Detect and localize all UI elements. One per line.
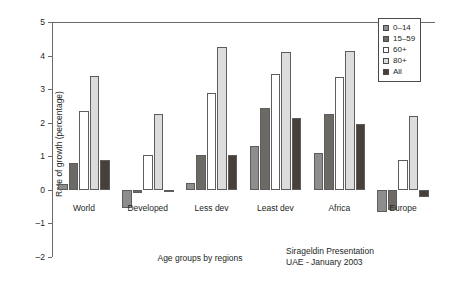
bar xyxy=(419,190,429,197)
bar xyxy=(154,114,164,190)
legend-item-3: 80+ xyxy=(383,56,415,66)
legend-swatch-icon xyxy=(383,36,389,42)
group-label-world: World xyxy=(73,203,95,213)
bar xyxy=(409,116,419,190)
bar xyxy=(356,124,366,189)
bar xyxy=(133,190,143,193)
bar xyxy=(398,160,408,190)
tick-label: 0 xyxy=(40,185,45,195)
tick-mark xyxy=(48,223,52,224)
legend-swatch-icon xyxy=(383,25,389,31)
legend-label: All xyxy=(393,68,402,76)
bar xyxy=(143,155,153,190)
growth-rate-bar-chart: Rate of growth (percentage) 543210–1–2 W… xyxy=(0,0,450,288)
tick-label: 2 xyxy=(40,118,45,128)
group-label-developed: Developed xyxy=(127,203,168,213)
bar xyxy=(292,118,302,190)
legend-swatch-icon xyxy=(383,58,389,64)
legend-item-4: All xyxy=(383,67,415,77)
tick-mark xyxy=(48,190,52,191)
bar xyxy=(324,114,334,190)
legend-label: 60+ xyxy=(393,46,407,54)
group-label-less-dev: Less dev xyxy=(195,203,229,213)
bar xyxy=(281,52,291,190)
bar xyxy=(377,190,387,212)
bar xyxy=(164,190,174,192)
bar xyxy=(100,160,110,190)
bar xyxy=(186,183,196,190)
legend-item-2: 60+ xyxy=(383,45,415,55)
credit-note: Sirageldin Presentation UAE - January 20… xyxy=(286,246,374,268)
legend-item-0: 0–14 xyxy=(383,23,415,33)
tick-mark xyxy=(48,22,52,23)
bar xyxy=(271,74,281,190)
legend-swatch-icon xyxy=(383,47,389,53)
legend-label: 15–59 xyxy=(393,35,415,43)
y-axis-line xyxy=(52,22,53,257)
bar xyxy=(69,163,79,190)
legend-label: 0–14 xyxy=(393,24,411,32)
tick-mark xyxy=(48,156,52,157)
tick-label: –1 xyxy=(36,218,45,228)
bar xyxy=(260,108,270,190)
tick-mark xyxy=(48,123,52,124)
group-label-least-dev: Least dev xyxy=(257,203,294,213)
chart-legend: 0–1415–5960+80+All xyxy=(378,18,421,82)
bar xyxy=(314,153,324,190)
x-axis-caption: Age groups by regions xyxy=(157,253,242,263)
group-label-europe: Europe xyxy=(389,203,416,213)
tick-label: 3 xyxy=(40,84,45,94)
legend-item-1: 15–59 xyxy=(383,34,415,44)
credit-line-1: Sirageldin Presentation xyxy=(286,246,374,257)
bar xyxy=(79,111,89,190)
credit-line-2: UAE - January 2003 xyxy=(286,257,374,268)
bar xyxy=(58,184,68,190)
legend-swatch-icon xyxy=(383,69,389,75)
bar xyxy=(217,47,227,190)
bar xyxy=(345,51,355,190)
tick-mark xyxy=(48,89,52,90)
bar xyxy=(207,93,217,190)
bar xyxy=(335,77,345,189)
legend-label: 80+ xyxy=(393,57,407,65)
bar xyxy=(196,155,206,190)
group-label-africa: Africa xyxy=(328,203,350,213)
bar xyxy=(90,76,100,190)
tick-mark xyxy=(48,56,52,57)
bar xyxy=(250,146,260,190)
tick-label: –2 xyxy=(36,252,45,262)
tick-label: 4 xyxy=(40,51,45,61)
tick-label: 1 xyxy=(40,151,45,161)
bar xyxy=(228,155,238,190)
tick-mark xyxy=(48,257,52,258)
tick-label: 5 xyxy=(40,17,45,27)
